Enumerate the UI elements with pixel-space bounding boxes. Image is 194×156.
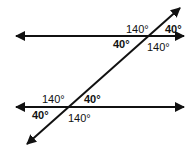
bottom-upper-left-angle: 140° [42, 94, 65, 105]
bottom-upper-right-angle: 40° [84, 94, 101, 105]
top-upper-left-angle: 140° [126, 24, 149, 35]
bottom-lower-right-angle: 140° [68, 113, 91, 124]
transversal-line [27, 8, 180, 144]
bottom-lower-left-angle: 40° [32, 110, 49, 121]
top-lower-right-angle: 140° [147, 42, 170, 53]
top-lower-left-angle: 40° [113, 39, 130, 50]
top-upper-right-angle: 40° [165, 24, 182, 35]
